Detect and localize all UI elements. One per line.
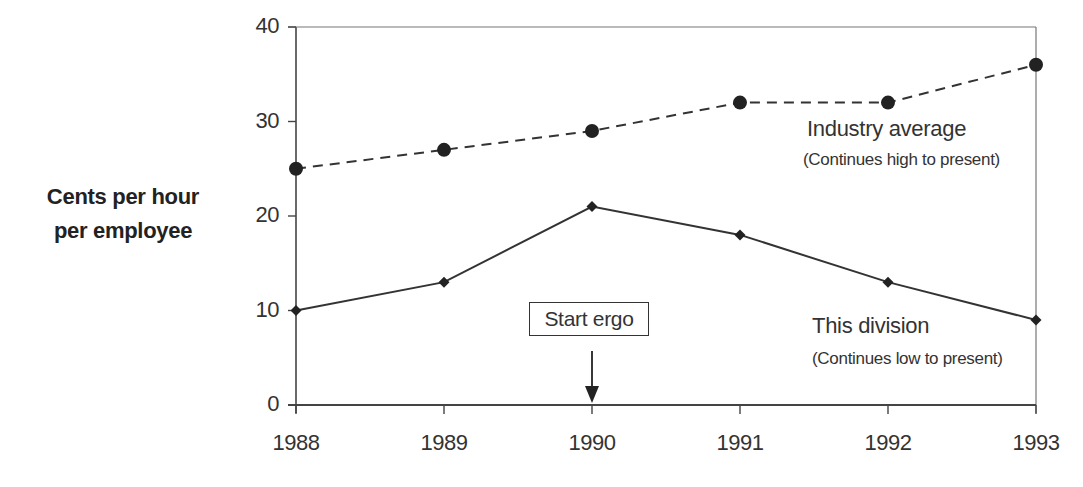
x-tick-label: 1988	[256, 430, 336, 456]
y-axis-title-line2: per employee	[18, 214, 228, 248]
chart-series	[289, 58, 1043, 326]
circle-marker	[437, 143, 451, 157]
circle-marker	[733, 96, 747, 110]
circle-marker	[585, 124, 599, 138]
y-tick-label: 30	[239, 108, 279, 134]
diamond-marker	[1031, 314, 1042, 325]
x-tick-label: 1993	[996, 430, 1076, 456]
industry-average-label: Industry average	[807, 116, 966, 142]
y-axis-title-line1: Cents per hour	[18, 180, 228, 214]
diamond-marker	[735, 229, 746, 240]
industry-average-annotation: Industry average	[807, 116, 966, 142]
this-division-note-text: (Continues low to present)	[812, 349, 1003, 369]
industry-average-note: (Continues high to present)	[803, 150, 1000, 170]
start-ergo-box: Start ergo	[529, 302, 649, 336]
this-division-note: (Continues low to present)	[812, 349, 1003, 369]
y-tick-label: 20	[239, 202, 279, 228]
y-axis-title: Cents per hour per employee	[18, 180, 228, 248]
x-tick-label: 1991	[700, 430, 780, 456]
y-tick-label: 10	[239, 297, 279, 323]
circle-marker	[881, 96, 895, 110]
diamond-marker	[587, 201, 598, 212]
diamond-marker	[291, 305, 302, 316]
industry-average-note-text: (Continues high to present)	[803, 150, 1000, 170]
diamond-marker	[439, 277, 450, 288]
y-tick-label: 40	[239, 13, 279, 39]
this-division-label: This division	[812, 313, 929, 339]
y-tick-label: 0	[239, 391, 279, 417]
arrow-down-icon	[585, 386, 599, 403]
this-division-line	[296, 207, 1036, 320]
circle-marker	[1029, 58, 1043, 72]
circle-marker	[289, 162, 303, 176]
x-tick-label: 1992	[848, 430, 928, 456]
this-division-annotation: This division	[812, 313, 929, 339]
start-ergo-arrow	[585, 351, 599, 403]
x-tick-label: 1990	[552, 430, 632, 456]
diamond-marker	[883, 277, 894, 288]
x-tick-label: 1989	[404, 430, 484, 456]
